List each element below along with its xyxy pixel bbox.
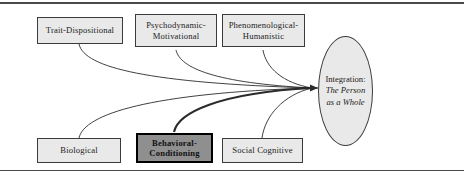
connector-trait-to-integration [79, 44, 312, 88]
node-phenomenological-humanistic-label: Phenomenological- Humanistic [226, 20, 302, 41]
integration-line-1: Integration: [325, 74, 365, 84]
node-social-cognitive-label: Social Cognitive [229, 145, 295, 155]
connector-behavioral-to-integration [174, 88, 312, 132]
integration-line-2: The Person [325, 85, 365, 96]
figure-container: Trait-Dispositional Psychodynamic- Motiv… [0, 0, 464, 180]
node-social-cognitive[interactable]: Social Cognitive [222, 138, 303, 163]
connector-biological-to-integration [79, 88, 312, 138]
node-phenomenological-humanistic[interactable]: Phenomenological- Humanistic [222, 14, 305, 47]
node-psychodynamic-motivational[interactable]: Psychodynamic- Motivational [135, 14, 217, 47]
node-integration-whole-person[interactable]: Integration: The Person as a Whole [318, 36, 373, 146]
node-trait-dispositional-label: Trait-Dispositional [43, 25, 117, 35]
connector-phenomenological-to-integration [263, 50, 312, 88]
node-trait-dispositional[interactable]: Trait-Dispositional [37, 17, 123, 44]
node-behavioral-conditioning[interactable]: Behavioral- Conditioning [136, 133, 213, 163]
node-integration-text: Integration: The Person as a Whole [325, 74, 365, 108]
connector-social-cognitive-to-integration [262, 88, 312, 138]
integration-line-3: as a Whole [325, 97, 365, 108]
node-behavioral-conditioning-label: Behavioral- Conditioning [146, 138, 202, 159]
node-biological-label: Biological [57, 145, 101, 155]
node-biological[interactable]: Biological [37, 138, 121, 163]
node-psychodynamic-motivational-label: Psychodynamic- Motivational [143, 20, 209, 41]
